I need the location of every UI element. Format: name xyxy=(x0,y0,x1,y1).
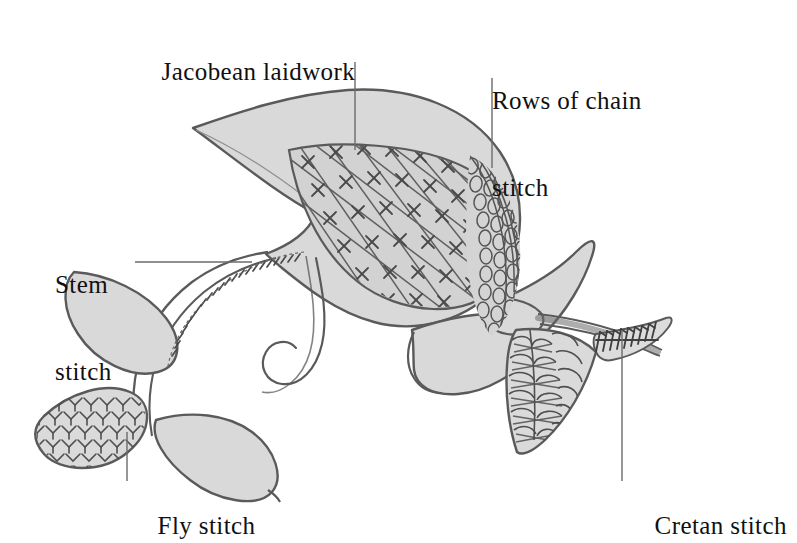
label-jacobean-laidwork: Jacobean laidwork xyxy=(135,28,355,115)
label-fly-stitch: Fly stitch xyxy=(131,482,255,543)
label-chain-line2: stitch xyxy=(492,173,642,202)
label-fly-text: Fly stitch xyxy=(158,512,256,539)
label-cretan-text: Cretan stitch xyxy=(655,512,787,539)
leaf-lower-right-tip xyxy=(268,490,280,502)
label-chain-line1: Rows of chain xyxy=(492,86,642,115)
label-stem-line2: stitch xyxy=(55,357,112,386)
label-jacobean-text: Jacobean laidwork xyxy=(162,58,356,85)
label-rows-of-chain-stitch: Rows of chain stitch xyxy=(492,28,642,260)
label-stem-stitch: Stem stitch xyxy=(55,212,112,444)
label-stem-line1: Stem xyxy=(55,270,112,299)
label-cretan-stitch: Cretan stitch xyxy=(628,482,787,543)
